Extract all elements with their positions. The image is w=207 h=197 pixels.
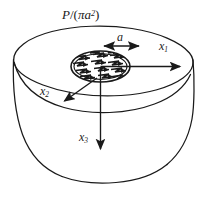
figure-canvas: P/(πa2) a x1 x2 x3 (0, 0, 207, 197)
radius-label: a (117, 31, 123, 43)
x2-axis-label: x2 (40, 85, 49, 98)
load-pressure-label: P/(πa2) (62, 8, 99, 21)
x3-axis-label: x3 (79, 131, 88, 144)
x1-axis-label: x1 (159, 40, 168, 53)
figure-drawing (0, 0, 207, 197)
x2-axis-arrow (65, 78, 98, 101)
